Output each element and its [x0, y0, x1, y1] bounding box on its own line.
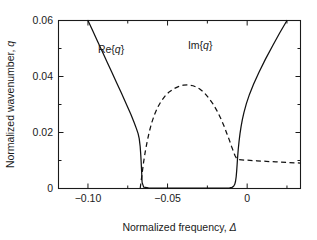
y-tick-label: 0.02	[33, 126, 54, 138]
x-tick-label: −0.10	[75, 192, 102, 204]
plot-frame	[59, 21, 301, 189]
curve-label-im-q: Im{q}	[188, 39, 213, 51]
y-tick-label: 0.04	[33, 70, 54, 82]
chart-text-labels: −0.10−0.05000.020.040.06Normalized frequ…	[4, 14, 251, 233]
figure-container: −0.10−0.05000.020.040.06Normalized frequ…	[0, 0, 317, 240]
y-tick-label: 0	[47, 182, 53, 194]
chart-canvas: −0.10−0.05000.020.040.06Normalized frequ…	[0, 0, 317, 240]
x-tick-label: 0	[244, 192, 250, 204]
x-tick-label: −0.05	[154, 192, 181, 204]
curve-label-re-q: Re{q}	[98, 43, 125, 55]
axis-ticks	[59, 21, 301, 189]
curve-im-q	[140, 85, 300, 189]
y-tick-label: 0.06	[33, 14, 54, 26]
x-axis-title: Normalized frequency, Δ	[122, 221, 236, 233]
plot-border	[59, 21, 301, 189]
y-axis-title: Normalized wavenumber, q	[4, 41, 16, 168]
